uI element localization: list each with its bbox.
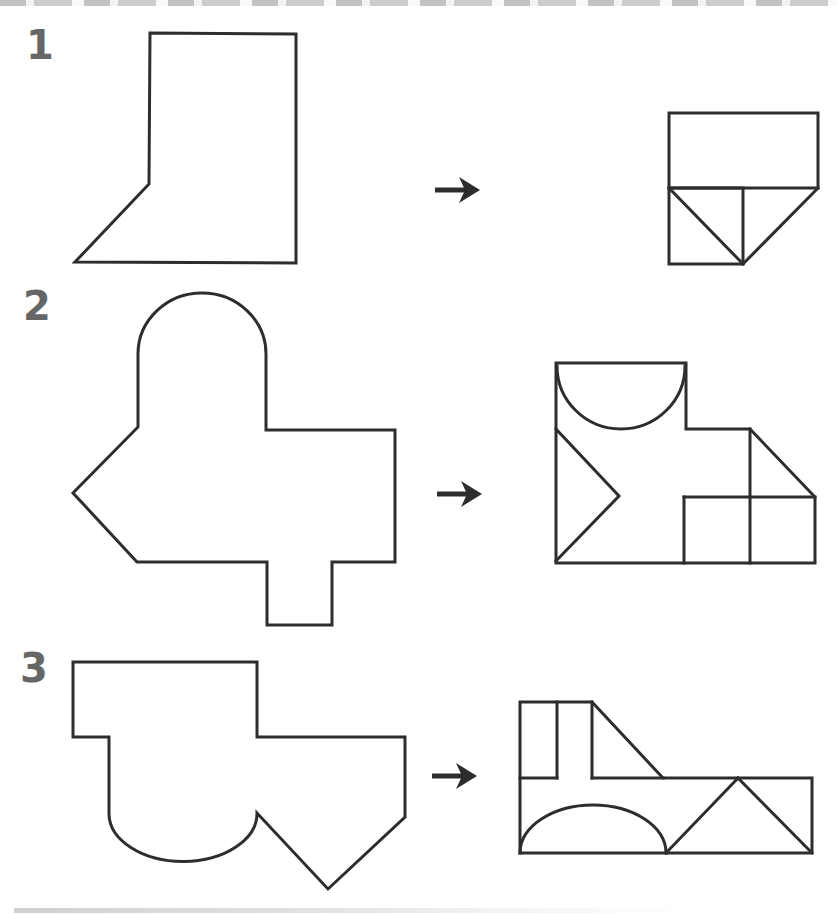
puzzle-item-2 [73, 293, 815, 625]
item-1-target-folded-rectangle-with-triangles [669, 113, 818, 188]
item-1-target-folded-rectangle-with-triangles [743, 188, 818, 264]
worksheet-page: 1 2 3 [0, 0, 837, 914]
item-3-source-stepped-outline-with-scallop-and-notch [73, 662, 405, 889]
item-3-target-folded-strip-with-arch-and-tent-triangles [520, 805, 666, 853]
item-3-target-folded-strip-with-arch-and-tent-triangles [738, 778, 812, 853]
puzzle-item-1 [75, 33, 818, 264]
item-1-source-rectangle-with-cut-corner [75, 33, 296, 263]
item-1-target-folded-rectangle-with-triangles [669, 188, 743, 264]
item-2-right-arrow-icon [437, 481, 482, 507]
item-3-right-arrow-icon [432, 763, 477, 789]
puzzle-diagram [0, 0, 837, 914]
item-3-target-folded-strip-with-arch-and-tent-triangles [520, 702, 812, 853]
item-1-right-arrow-icon [435, 177, 480, 203]
puzzle-item-3 [73, 662, 812, 889]
item-3-target-folded-strip-with-arch-and-tent-triangles [666, 778, 738, 853]
item-2-target-folded-square-with-semicircle-triangle-squares [557, 366, 685, 429]
item-2-target-folded-square-with-semicircle-triangle-squares [556, 429, 619, 561]
item-2-source-dome-arrow-outline-with-tab [73, 293, 395, 625]
